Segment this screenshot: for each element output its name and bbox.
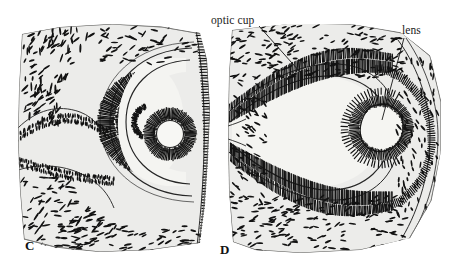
histology-illustration bbox=[0, 0, 451, 270]
panel-d bbox=[228, 23, 442, 253]
optic-cup-label: optic cup bbox=[211, 14, 254, 26]
panel-letter-d: D bbox=[220, 242, 229, 258]
figure-root: optic cup lens C D bbox=[0, 0, 451, 270]
panel-c bbox=[16, 23, 214, 254]
panel-letter-c: C bbox=[25, 238, 34, 254]
panel-c-lens-lumen bbox=[157, 121, 184, 148]
lens-label: lens bbox=[402, 24, 421, 36]
panel-c-lens-vesicle bbox=[143, 107, 197, 161]
